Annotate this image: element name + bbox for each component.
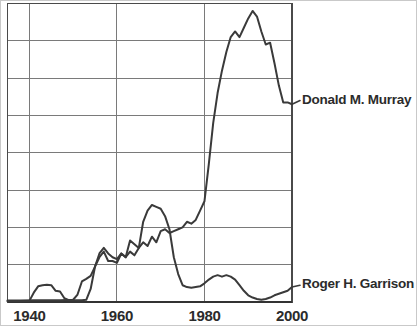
series-line-1 [8, 205, 293, 301]
leader-line-1 [292, 285, 300, 287]
series-label-1: Roger H. Garrison [302, 276, 414, 291]
leader-line-0 [292, 101, 300, 105]
label-leader-lines [292, 101, 300, 288]
ngram-chart: 1940196019802000 Donald M. MurrayRoger H… [0, 0, 417, 326]
x-tick-label-2000: 2000 [276, 307, 308, 324]
x-tick-label-1960: 1960 [101, 307, 133, 324]
horizontal-gridlines [8, 4, 293, 303]
series-line-0 [8, 11, 293, 301]
series-label-0: Donald M. Murray [302, 92, 411, 107]
x-tick-label-1940: 1940 [13, 307, 45, 324]
series-lines [8, 11, 293, 301]
x-tick-label-1980: 1980 [188, 307, 220, 324]
